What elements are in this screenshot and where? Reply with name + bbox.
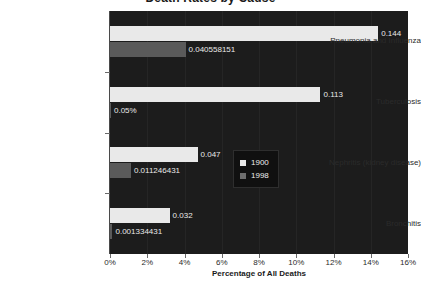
x-axis-tick-label: 12% — [325, 258, 341, 267]
x-axis-tick-label: 6% — [216, 258, 228, 267]
x-axis-tick-label: 14% — [363, 258, 379, 267]
chart-title: Death Rates by Cause — [0, 0, 421, 5]
x-axis-tick-label: 8% — [253, 258, 265, 267]
x-axis-tick-label: 2% — [141, 258, 153, 267]
y-axis-tick — [105, 193, 110, 194]
legend-label: 1998 — [251, 171, 269, 180]
x-axis-tick-label: 10% — [288, 258, 304, 267]
bar-1900 — [110, 208, 170, 223]
chart-legend: 19001998 — [233, 150, 279, 188]
bar-value-label: 0.032 — [170, 208, 193, 223]
category-label: Bronchitis — [315, 219, 421, 228]
x-axis-tick-label: 0% — [104, 258, 116, 267]
y-axis-tick — [105, 133, 110, 134]
category-label: Nephritis (kidney disease) — [315, 158, 421, 167]
x-axis-tick-label: 16% — [400, 258, 416, 267]
bar-1998 — [110, 42, 186, 57]
legend-swatch-icon — [240, 160, 246, 166]
legend-label: 1900 — [251, 158, 269, 167]
bar-1998 — [110, 163, 131, 178]
bar-value-label: 0.011246431 — [131, 163, 180, 178]
category-label: Tuberculosis — [315, 97, 421, 106]
bar-value-label: 0.05% — [111, 103, 137, 118]
plot-area: 0.1440.0405581510.1130.05%0.0470.0112464… — [110, 11, 408, 254]
bar-value-label: 0.047 — [198, 147, 221, 162]
bar-value-label: 0.001334431 — [112, 224, 162, 239]
bar-value-label: 0.040558151 — [186, 42, 236, 57]
bar-1900 — [110, 147, 198, 162]
category-label: Pneumonia and Influenza — [315, 36, 421, 45]
bar-1900 — [110, 87, 320, 102]
y-axis-tick — [105, 72, 110, 73]
legend-swatch-icon — [240, 173, 246, 179]
legend-item-1998: 1998 — [240, 169, 269, 182]
x-axis-title: Percentage of All Deaths — [110, 269, 408, 278]
legend-item-1900: 1900 — [240, 156, 269, 169]
x-axis-tick-label: 4% — [179, 258, 191, 267]
gridline — [408, 11, 409, 254]
